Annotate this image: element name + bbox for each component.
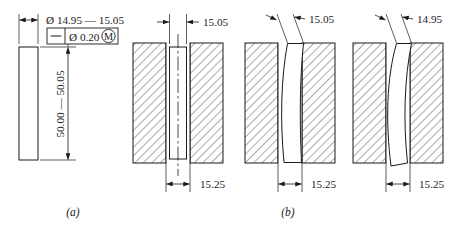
section-3-top-dim-arrow-left <box>375 15 386 20</box>
fcf-tolerance-label: Ø 0.20 <box>69 31 100 43</box>
section-3-top-dim-arrow-right <box>403 17 414 19</box>
section-1-hatch-right <box>190 43 223 163</box>
section-2-pin-bowed-outline <box>282 44 304 163</box>
pin-body-rect <box>19 47 38 160</box>
pin-length-dimension-label: 50.00 — 50.05 <box>54 70 66 138</box>
pin-diameter-dimension-label: Ø 14.95 — 15.05 <box>46 14 124 26</box>
section-1-hatch-left <box>133 43 166 163</box>
caption-b: (b) <box>281 206 295 219</box>
section-3-group <box>353 14 443 192</box>
section-3-bottom-dimension-label: 15.25 <box>419 178 445 190</box>
section-2-hatch-right <box>302 43 335 163</box>
section-3-hatch-left <box>353 43 386 163</box>
section-2-hatch-left <box>245 43 278 163</box>
section-3-top-dimension-label: 14.95 <box>417 13 443 25</box>
section-2-top-dim-arrow-left <box>266 15 277 20</box>
section-3-top-ext-left <box>386 14 397 43</box>
mmc-modifier-label: M <box>104 31 113 42</box>
section-1-bottom-dimension-label: 15.25 <box>200 178 226 190</box>
section-2-top-dim-arrow-right <box>295 17 306 19</box>
section-3-hatch-right <box>410 43 443 163</box>
section-2-top-ext-left <box>277 14 288 43</box>
caption-a: (a) <box>66 206 80 219</box>
section-2-bottom-dimension-label: 15.25 <box>311 178 337 190</box>
section-1-top-dimension-label: 15.05 <box>203 16 229 28</box>
figure-canvas: Ø 14.95 — 15.05 Ø 0.20 M 50.00 — 50.05 1… <box>0 0 463 234</box>
section-2-top-dimension-label: 15.05 <box>309 13 335 25</box>
section-2-group <box>245 14 335 192</box>
section-1-group <box>133 14 223 192</box>
